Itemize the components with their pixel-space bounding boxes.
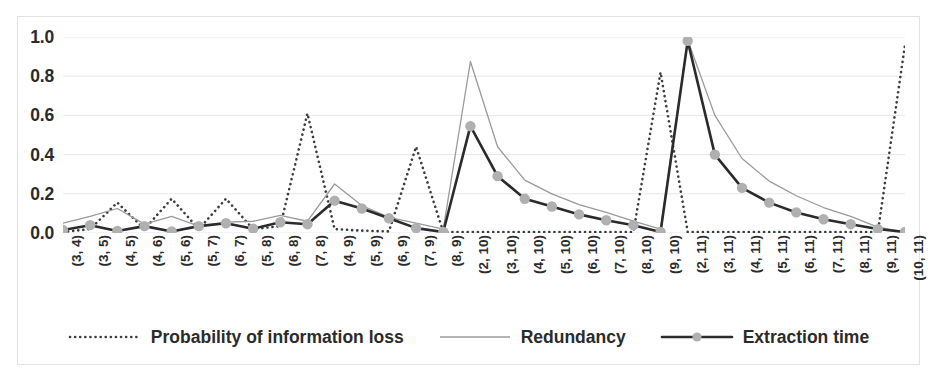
legend-label: Redundancy bbox=[521, 327, 626, 348]
x-axis-tick-label: (6, 10) bbox=[585, 235, 600, 313]
x-axis-tick-label: (4, 5) bbox=[123, 235, 138, 313]
x-axis-tick-label: (5, 6) bbox=[178, 235, 193, 313]
chart-container: 1.00.80.60.40.20.0 (3, 4)(3, 5)(4, 5)(4,… bbox=[17, 16, 920, 365]
series-line-redundancy bbox=[63, 40, 905, 232]
dotted-line-swatch bbox=[68, 330, 142, 344]
data-point-marker bbox=[194, 221, 204, 231]
x-axis-tick-label: (7, 9) bbox=[422, 235, 437, 313]
data-point-marker bbox=[683, 37, 693, 46]
x-axis-tick-label: (8, 10) bbox=[639, 235, 654, 313]
data-point-marker bbox=[411, 223, 421, 233]
data-point-marker bbox=[900, 227, 905, 233]
marker-line-swatch bbox=[660, 330, 734, 344]
y-axis: 1.00.80.60.40.20.0 bbox=[18, 37, 60, 233]
y-axis-tick-label: 0.2 bbox=[30, 183, 54, 204]
x-axis-tick-label: (6, 8) bbox=[286, 235, 301, 313]
data-point-marker bbox=[275, 217, 285, 227]
x-axis-tick-label: (6, 11) bbox=[802, 235, 817, 313]
data-point-marker bbox=[737, 183, 747, 193]
data-point-marker bbox=[601, 215, 611, 225]
y-axis-tick-label: 0.6 bbox=[30, 105, 54, 126]
series-line-probability-of-information-loss bbox=[63, 45, 905, 232]
legend-label: Probability of information loss bbox=[151, 327, 404, 348]
data-point-marker bbox=[791, 207, 801, 217]
data-point-marker bbox=[818, 214, 828, 224]
legend-label: Extraction time bbox=[743, 327, 869, 348]
y-axis-tick-label: 0.4 bbox=[30, 144, 54, 165]
x-axis-tick-label: (3, 5) bbox=[96, 235, 111, 313]
x-axis-tick-label: (5, 7) bbox=[205, 235, 220, 313]
plot-canvas bbox=[63, 37, 905, 233]
legend-item[interactable]: Extraction time bbox=[660, 327, 869, 348]
x-axis-tick-label: (4, 6) bbox=[150, 235, 165, 313]
x-axis: (3, 4)(3, 5)(4, 5)(4, 6)(5, 6)(5, 7)(6, … bbox=[63, 235, 905, 313]
x-axis-tick-label: (3, 11) bbox=[721, 235, 736, 313]
data-point-marker bbox=[465, 121, 475, 131]
x-axis-tick-label: (2, 11) bbox=[694, 235, 709, 313]
data-point-marker bbox=[384, 213, 394, 223]
data-point-marker bbox=[112, 226, 122, 233]
x-axis-tick-label: (8, 11) bbox=[857, 235, 872, 313]
data-point-marker bbox=[302, 219, 312, 229]
data-point-marker bbox=[574, 209, 584, 219]
data-point-marker bbox=[492, 171, 502, 181]
data-point-marker bbox=[329, 195, 339, 205]
data-point-marker bbox=[357, 203, 367, 213]
thin-line-swatch bbox=[438, 330, 512, 344]
x-axis-tick-label: (7, 8) bbox=[313, 235, 328, 313]
x-axis-tick-label: (9, 10) bbox=[667, 235, 682, 313]
data-point-marker bbox=[710, 149, 720, 159]
y-axis-tick-label: 0.8 bbox=[30, 66, 54, 87]
data-point-marker bbox=[845, 219, 855, 229]
plot-area bbox=[63, 37, 905, 233]
data-point-marker bbox=[628, 220, 638, 230]
x-axis-tick-label: (8, 9) bbox=[449, 235, 464, 313]
x-axis-tick-label: (7, 11) bbox=[830, 235, 845, 313]
y-axis-tick-label: 0.0 bbox=[30, 223, 54, 244]
data-point-marker bbox=[85, 220, 95, 230]
x-axis-tick-label: (5, 10) bbox=[558, 235, 573, 313]
x-axis-tick-label: (4, 11) bbox=[748, 235, 763, 313]
x-axis-tick-label: (6, 7) bbox=[232, 235, 247, 313]
series-line-extraction-time bbox=[63, 41, 905, 232]
x-axis-tick-label: (6, 9) bbox=[395, 235, 410, 313]
data-point-marker bbox=[520, 194, 530, 204]
legend-item[interactable]: Redundancy bbox=[438, 327, 626, 348]
x-axis-tick-label: (5, 11) bbox=[775, 235, 790, 313]
x-axis-tick-label: (5, 9) bbox=[368, 235, 383, 313]
x-axis-tick-label: (7, 10) bbox=[612, 235, 627, 313]
data-point-marker bbox=[139, 221, 149, 231]
x-axis-tick-label: (4, 9) bbox=[341, 235, 356, 313]
data-point-marker bbox=[63, 225, 68, 233]
data-point-marker bbox=[764, 197, 774, 207]
x-axis-tick-label: (4, 10) bbox=[531, 235, 546, 313]
x-axis-tick-label: (9, 11) bbox=[884, 235, 899, 313]
chart-legend: Probability of information lossRedundanc… bbox=[18, 317, 919, 357]
y-axis-tick-label: 1.0 bbox=[30, 27, 54, 48]
x-axis-tick-label: (5, 8) bbox=[259, 235, 274, 313]
legend-item[interactable]: Probability of information loss bbox=[68, 327, 404, 348]
x-axis-tick-label: (2, 10) bbox=[476, 235, 491, 313]
x-axis-tick-label: (3, 10) bbox=[504, 235, 519, 313]
x-axis-tick-label: (3, 4) bbox=[69, 235, 84, 313]
data-point-marker bbox=[547, 201, 557, 211]
data-point-marker bbox=[166, 226, 176, 233]
x-axis-tick-label: (10, 11) bbox=[911, 235, 926, 313]
data-point-marker bbox=[221, 218, 231, 228]
